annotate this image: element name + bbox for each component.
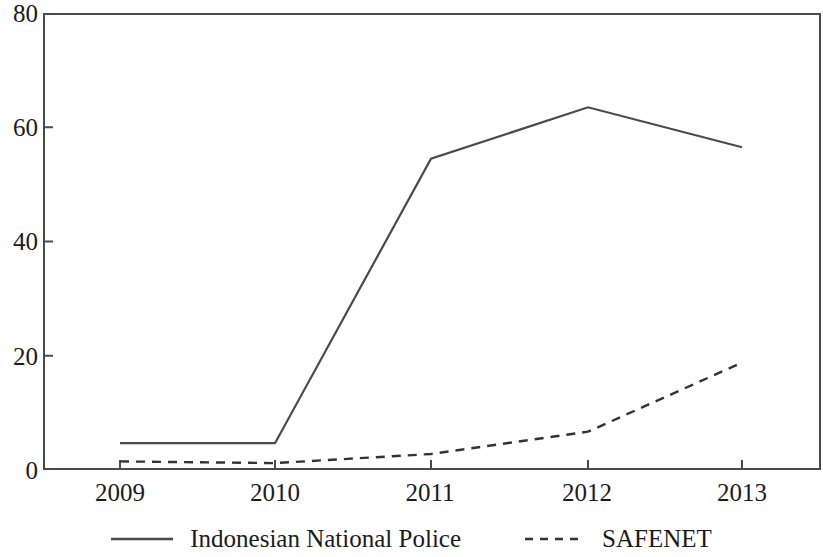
x-tick-marks (120, 460, 742, 470)
legend-entry-indonesian-national-police: Indonesian National Police (111, 524, 461, 554)
y-tick-marks (44, 127, 53, 356)
solid-line-swatch-icon (111, 532, 173, 546)
series-line-safenet (120, 363, 742, 464)
dashed-line-swatch-icon (523, 532, 585, 546)
legend-label: SAFENET (602, 524, 712, 554)
chart-legend: Indonesian National Police SAFENET (0, 521, 823, 557)
plot-canvas (0, 0, 823, 557)
legend-entry-safenet: SAFENET (523, 524, 712, 554)
legend-label: Indonesian National Police (190, 524, 461, 554)
line-chart: 80 60 40 20 0 2009 2010 2011 2012 2013 I… (0, 0, 823, 557)
series-line-indonesian-national-police (120, 107, 742, 443)
